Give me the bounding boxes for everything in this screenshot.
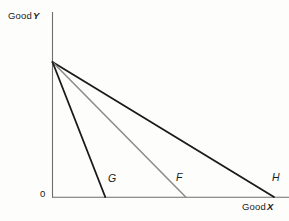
x-axis-label-variable: X: [266, 201, 274, 212]
x-axis-label: GoodX: [242, 201, 274, 212]
budget-line-f: [53, 62, 186, 197]
budget-line-f-label: F: [176, 171, 182, 183]
budget-line-h: [53, 62, 275, 197]
y-axis-label-prefix: Good: [8, 10, 32, 21]
origin-label: 0: [40, 188, 45, 199]
budget-line-g: [53, 62, 106, 197]
x-axis-label-prefix: Good: [242, 201, 266, 212]
budget-line-figure: GoodY GoodX 0 G F H: [0, 0, 289, 221]
y-axis-label-variable: Y: [32, 10, 40, 21]
budget-line-h-label: H: [272, 171, 280, 183]
budget-line-g-label: G: [108, 172, 116, 184]
y-axis-label: GoodY: [8, 10, 40, 21]
